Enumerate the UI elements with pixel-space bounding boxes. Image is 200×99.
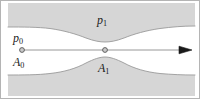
throat-area-subscript: 1 xyxy=(105,67,109,76)
inlet-pressure-label: p0 xyxy=(13,32,23,46)
inlet-area-label: A0 xyxy=(13,56,24,70)
throat-point-marker xyxy=(103,48,108,53)
venturi-figure: p0 A0 p1 A1 xyxy=(0,0,200,99)
inlet-area-subscript: 0 xyxy=(20,61,24,70)
throat-area-label: A1 xyxy=(98,62,109,76)
throat-pressure-subscript: 1 xyxy=(103,19,107,28)
inlet-pressure-subscript: 0 xyxy=(19,37,23,46)
throat-pressure-label: p1 xyxy=(97,14,107,28)
inlet-point-marker xyxy=(20,48,25,53)
